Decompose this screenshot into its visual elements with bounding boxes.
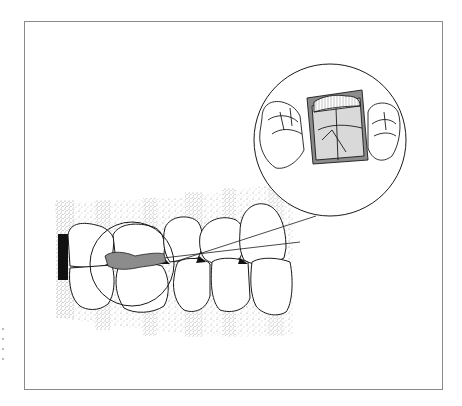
lower-teeth bbox=[69, 258, 292, 315]
posterior-black-block bbox=[58, 234, 68, 280]
dental-figure bbox=[0, 0, 462, 406]
margin-marks bbox=[0, 328, 6, 368]
detail-inset bbox=[254, 64, 406, 216]
